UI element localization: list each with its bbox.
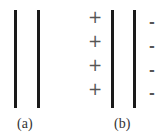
minus-charge: - [149, 15, 155, 29]
plate-left [14, 10, 17, 108]
plus-charge: + [88, 81, 102, 98]
minus-charge: - [149, 39, 155, 53]
plus-charge: + [88, 57, 102, 74]
plate-right [37, 10, 40, 108]
plus-charge: + [88, 33, 102, 50]
caption-a: (a) [17, 116, 33, 132]
minus-charge: - [149, 63, 155, 77]
minus-charge: - [149, 86, 155, 100]
plate-left [111, 10, 114, 108]
caption-b: (b) [114, 116, 130, 132]
plate-right [133, 10, 136, 108]
plus-charge: + [88, 9, 102, 26]
capacitor-plates-diagram: (a) + + + + - - - - (b) [0, 0, 164, 140]
